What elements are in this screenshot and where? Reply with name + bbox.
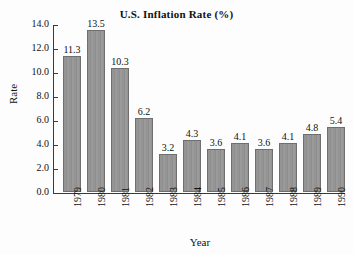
bar[interactable]: 10.3 <box>111 68 129 192</box>
y-axis-tick-label: 4.0 <box>19 138 49 149</box>
x-axis-tick-label: 1985 <box>216 187 227 207</box>
bar-value-label: 5.4 <box>330 115 343 126</box>
y-axis-tick-label: 6.0 <box>19 114 49 125</box>
bar-value-label: 6.2 <box>138 106 151 117</box>
y-axis-tick-label: 12.0 <box>19 42 49 53</box>
y-axis-tick-mark <box>54 25 58 26</box>
y-axis-tick-label: 2.0 <box>19 162 49 173</box>
x-axis-tick-label: 1982 <box>144 187 155 207</box>
chart-title: U.S. Inflation Rate (%) <box>0 8 353 20</box>
x-axis-tick-label: 1984 <box>192 187 203 207</box>
y-axis-tick: 8.0 <box>53 97 58 98</box>
bar-value-label: 4.8 <box>306 122 319 133</box>
y-axis-tick-label: 0.0 <box>19 186 49 197</box>
y-axis-tick-mark <box>54 121 58 122</box>
x-axis-tick-label: 1989 <box>312 187 323 207</box>
bar-group: 4.31984 <box>183 25 201 193</box>
bar[interactable]: 4.1 <box>279 143 297 192</box>
x-axis-tick-label: 1988 <box>288 187 299 207</box>
bar[interactable]: 13.5 <box>87 30 105 192</box>
x-axis-tick-label: 1979 <box>72 187 83 207</box>
y-axis-tick-mark <box>54 49 58 50</box>
y-axis-tick: 10.0 <box>53 73 58 74</box>
bar-value-label: 4.3 <box>186 128 199 139</box>
bar-group: 4.81989 <box>303 25 321 193</box>
bar-group: 5.41990 <box>327 25 345 193</box>
y-axis-tick-mark <box>54 193 58 194</box>
bar-value-label: 13.5 <box>87 18 105 29</box>
y-axis-tick-label: 14.0 <box>19 18 49 29</box>
y-axis-tick: 6.0 <box>53 121 58 122</box>
y-axis-tick: 12.0 <box>53 49 58 50</box>
x-axis-tick-label: 1986 <box>240 187 251 207</box>
y-axis-tick-mark <box>54 169 58 170</box>
bar-group: 4.11986 <box>231 25 249 193</box>
y-axis-tick-mark <box>54 97 58 98</box>
bar[interactable]: 5.4 <box>327 127 345 192</box>
x-axis-label: Year <box>55 236 345 248</box>
bar-value-label: 3.6 <box>210 137 223 148</box>
bar-value-label: 10.3 <box>111 56 129 67</box>
y-axis-tick-label: 8.0 <box>19 90 49 101</box>
bar[interactable]: 4.8 <box>303 134 321 192</box>
y-axis-tick-mark <box>54 73 58 74</box>
x-axis-tick-label: 1981 <box>120 187 131 207</box>
y-axis-tick: 14.0 <box>53 25 58 26</box>
chart-figure: U.S. Inflation Rate (%) Rate 0.02.04.06.… <box>0 0 353 254</box>
bar[interactable]: 4.1 <box>231 143 249 192</box>
x-axis-tick-label: 1983 <box>168 187 179 207</box>
bar-value-label: 3.2 <box>162 142 175 153</box>
y-axis-label: Rate <box>7 69 19 119</box>
bar[interactable]: 6.2 <box>135 118 153 192</box>
x-axis-tick-label: 1987 <box>264 187 275 207</box>
bar[interactable]: 11.3 <box>63 56 81 192</box>
bar-group: 13.51980 <box>87 25 105 193</box>
bar[interactable]: 3.6 <box>255 149 273 192</box>
bar[interactable]: 3.6 <box>207 149 225 192</box>
bar-value-label: 11.3 <box>63 44 80 55</box>
bar-group: 4.11988 <box>279 25 297 193</box>
x-axis-tick-label: 1980 <box>96 187 107 207</box>
x-axis-tick-label: 1990 <box>336 187 347 207</box>
bar-value-label: 4.1 <box>282 131 295 142</box>
bar-value-label: 3.6 <box>258 137 271 148</box>
bar-group: 6.21982 <box>135 25 153 193</box>
y-axis-tick: 2.0 <box>53 169 58 170</box>
bar-group: 11.31979 <box>63 25 81 193</box>
y-axis-tick-label: 10.0 <box>19 66 49 77</box>
y-axis-tick: 4.0 <box>53 145 58 146</box>
bar-group: 3.21983 <box>159 25 177 193</box>
bar-group: 3.61987 <box>255 25 273 193</box>
bar-value-label: 4.1 <box>234 131 247 142</box>
plot-area: 0.02.04.06.08.010.012.014.0 11.3197913.5… <box>53 25 345 193</box>
bar-group: 3.61985 <box>207 25 225 193</box>
y-axis-tick: 0.0 <box>53 193 58 194</box>
bar-group: 10.31981 <box>111 25 129 193</box>
y-axis-tick-mark <box>54 145 58 146</box>
bar[interactable]: 4.3 <box>183 140 201 192</box>
